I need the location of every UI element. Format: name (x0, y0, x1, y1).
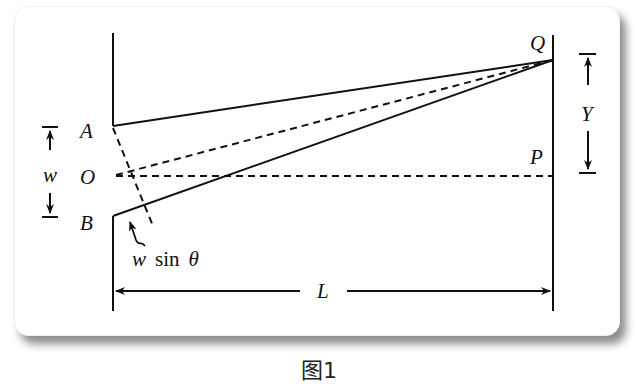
dashed-lines (113, 60, 553, 226)
label-w: w (43, 163, 57, 187)
label-q: Q (530, 31, 545, 55)
rays (113, 60, 553, 216)
label-o: O (80, 165, 95, 189)
path-difference-pointer (130, 222, 145, 246)
label-l: L (316, 279, 329, 303)
label-p: P (529, 145, 543, 169)
figure-caption: 图1 (0, 352, 638, 384)
label-path-difference: w sin θ (132, 247, 199, 271)
label-b: B (80, 211, 93, 235)
ray-a-to-q (113, 60, 553, 126)
label-y: Y (581, 102, 595, 126)
label-a: A (78, 119, 93, 143)
ray-b-to-q (113, 60, 553, 216)
ray-o-to-q (116, 60, 553, 175)
